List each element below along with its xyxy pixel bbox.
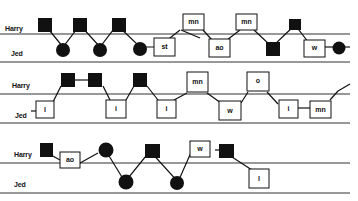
harry-turn-square xyxy=(289,19,301,30)
panel-2-nodes xyxy=(36,72,331,120)
diagram-canvas xyxy=(0,0,358,201)
box-label-i: i xyxy=(157,105,176,112)
box-label-w: w xyxy=(219,107,241,114)
box-label-l: l xyxy=(249,175,269,182)
panel-1-jed-label: Jed xyxy=(11,50,23,57)
panel-3-nodes xyxy=(40,141,269,190)
panel-3-harry-label: Harry xyxy=(14,151,32,158)
panel-3-jed-label: Jed xyxy=(14,181,26,188)
harry-turn-square xyxy=(73,18,87,32)
jed-turn-circle xyxy=(333,42,346,55)
box-label-mn: mn xyxy=(187,78,208,85)
box-label-mn: mn xyxy=(236,18,257,25)
harry-turn-square xyxy=(38,18,52,32)
box-label-o: o xyxy=(247,77,269,84)
jed-turn-circle xyxy=(133,42,147,56)
panel-2-harry-label: Harry xyxy=(12,82,30,89)
harry-turn-square xyxy=(88,73,102,87)
box-label-ao: ao xyxy=(60,156,80,163)
jed-turn-circle xyxy=(170,176,184,190)
panel-1-harry-label: Harry xyxy=(5,25,23,32)
jed-turn-square xyxy=(266,42,280,56)
harry-turn-square xyxy=(61,73,75,87)
jed-turn-circle xyxy=(119,175,134,190)
harry-turn-square xyxy=(145,144,160,158)
harry-turn-square xyxy=(133,73,147,87)
harry-turn-square xyxy=(112,18,126,32)
box-label-l: l xyxy=(36,106,54,113)
box-label-ao: ao xyxy=(209,44,230,51)
harry-turn-square xyxy=(40,143,53,157)
box-label-mn: mn xyxy=(183,18,204,25)
box-label-w: w xyxy=(304,44,325,51)
jed-turn-circle xyxy=(56,43,70,57)
box-label-i: i xyxy=(106,105,126,112)
harry-turn-circle xyxy=(99,143,114,158)
box-label-w: w xyxy=(190,145,210,152)
box-label-i: i xyxy=(279,105,298,112)
box-label-st: st xyxy=(154,43,175,50)
jed-turn-circle xyxy=(93,43,107,57)
panel-2-jed-label: Jed xyxy=(15,112,27,119)
harry-turn-square xyxy=(219,144,234,158)
box-label-mn: mn xyxy=(310,106,331,113)
